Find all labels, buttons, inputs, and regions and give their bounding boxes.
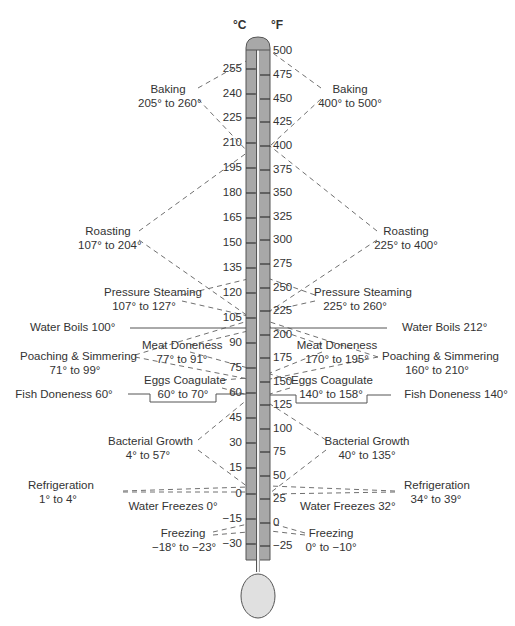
poaching-fahrenheit-label: Poaching & Simmering 160° to 210° <box>382 349 492 377</box>
eggs-coagulate-fahrenheit-label: Eggs Coagulate 140° to 158° <box>291 373 371 401</box>
water-boils-celsius-label: Water Boils 100° <box>30 320 110 334</box>
celsius-tick-label: 0 <box>212 487 242 499</box>
fahrenheit-tick-label: 375 <box>273 163 303 175</box>
fahrenheit-tick-label: 300 <box>273 233 303 245</box>
water-boils-fahrenheit-label: Water Boils 212° <box>402 320 486 334</box>
refrig-f-upper-leader <box>270 486 395 491</box>
baking-celsius-label: Baking 205° to 260° <box>138 82 198 110</box>
freezing-c-upper-leader <box>213 524 248 532</box>
water-freezes-fahrenheit-label: Water Freezes 32° <box>300 499 394 513</box>
thermometer-graphic <box>0 0 515 626</box>
fahrenheit-tick-label: 400 <box>273 139 303 151</box>
celsius-tick-label: 45 <box>212 411 242 423</box>
pressure-steaming-fahrenheit-label: Pressure Steaming 225° to 260° <box>314 285 396 313</box>
eggs-coagulate-celsius-label: Eggs Coagulate 60° to 70° <box>144 373 222 401</box>
meat-doneness-celsius-label: Meat Doneness 77° to 91° <box>142 338 222 366</box>
fahrenheit-tick-label: 325 <box>273 210 303 222</box>
bacterial-growth-fahrenheit-label: Bacterial Growth 40° to 135° <box>324 434 410 462</box>
freezing-f-lower-leader <box>270 531 305 535</box>
celsius-tick-label: 195 <box>212 161 242 173</box>
celsius-tick-label: 180 <box>212 186 242 198</box>
celsius-tick-label: 225 <box>212 111 242 123</box>
refrigeration-fahrenheit-label: Refrigeration 34° to 39° <box>404 478 468 506</box>
baking-fahrenheit-label: Baking 400° to 500° <box>318 82 382 110</box>
bacterial-growth-celsius-label: Bacterial Growth 4° to 57° <box>108 434 188 462</box>
freezing-celsius-label: Freezing −18° to −23° <box>152 526 214 554</box>
fahrenheit-tick-label: −25 <box>273 539 303 551</box>
fahrenheit-tick-label: 75 <box>273 445 303 457</box>
meat-doneness-fahrenheit-label: Meat Doneness 170° to 195° <box>295 338 379 366</box>
roasting-celsius-label: Roasting 107° to 204° <box>78 224 138 252</box>
fahrenheit-tick-label: 500 <box>273 44 303 56</box>
roasting-fahrenheit-label: Roasting 225° to 400° <box>374 224 438 252</box>
celsius-tick-label: 255 <box>212 62 242 74</box>
fish-doneness-celsius-label: Fish Doneness 60° <box>14 387 114 401</box>
thermometer-body <box>241 37 275 618</box>
fahrenheit-tick-label: 0 <box>273 516 303 528</box>
celsius-tick-label: −30 <box>212 537 242 549</box>
refrigeration-celsius-label: Refrigeration 1° to 4° <box>28 478 88 506</box>
fahrenheit-tick-label: 450 <box>273 92 303 104</box>
celsius-tick-label: −15 <box>212 512 242 524</box>
celsius-tick-label: 210 <box>212 136 242 148</box>
fahrenheit-tick-label: 25 <box>273 492 303 504</box>
fahrenheit-tick-label: 250 <box>273 281 303 293</box>
fahrenheit-tick-label: 425 <box>273 115 303 127</box>
celsius-tick-label: 30 <box>212 436 242 448</box>
thermometer-diagram: °C °F 255 240 225 210 195 180 165 150 13… <box>0 0 515 626</box>
freezing-c-lower-leader <box>213 532 248 535</box>
celsius-tick-label: 15 <box>212 461 242 473</box>
fish-doneness-fahrenheit-label: Fish Doneness 140° <box>402 387 510 401</box>
fahrenheit-tick-label: 50 <box>273 469 303 481</box>
fahrenheit-tick-label: 475 <box>273 68 303 80</box>
celsius-tick-label: 135 <box>212 261 242 273</box>
fahrenheit-tick-label: 275 <box>273 257 303 269</box>
eggs-f-lower-leader <box>270 388 290 394</box>
poaching-celsius-label: Poaching & Simmering 71° to 99° <box>20 349 130 377</box>
pressure-steaming-celsius-label: Pressure Steaming 107° to 127° <box>104 285 184 313</box>
water-freezes-celsius-label: Water Freezes 0° <box>128 499 218 513</box>
fahrenheit-unit-label: °F <box>271 18 283 32</box>
celsius-tick-label: 150 <box>212 236 242 248</box>
celsius-tick-label: 240 <box>212 87 242 99</box>
fahrenheit-tick-label: 100 <box>273 422 303 434</box>
fahrenheit-tick-label: 225 <box>273 304 303 316</box>
fahrenheit-tick-label: 350 <box>273 186 303 198</box>
celsius-tick-label: 120 <box>212 286 242 298</box>
celsius-tick-label: 105 <box>212 311 242 323</box>
celsius-tick-label: 165 <box>212 211 242 223</box>
celsius-unit-label: °C <box>233 18 246 32</box>
freezing-fahrenheit-label: Freezing 0° to −10° <box>303 526 359 554</box>
eggs-c-upper-leader <box>222 378 248 380</box>
